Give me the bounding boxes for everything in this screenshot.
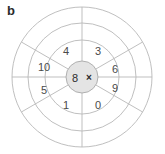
sector-label-middle-1: 10	[38, 61, 50, 73]
sector-label-inner-6: 1	[63, 99, 69, 111]
hub-circle	[66, 61, 98, 93]
sector-label-inner-1: 4	[63, 45, 69, 57]
figure-panel: b 8 × 4 3 6 9 0 1	[0, 0, 165, 154]
hub-group: 8 ×	[66, 61, 98, 93]
middle-ring-labels: 10 5	[38, 61, 50, 96]
sector-label-middle-2: 5	[41, 84, 47, 96]
sector-label-inner-5: 0	[95, 99, 101, 111]
sector-label-inner-3: 6	[112, 63, 118, 75]
multiplication-cross-icon: ×	[86, 72, 92, 83]
sector-label-inner-4: 9	[112, 82, 118, 94]
target-diagram: 8 × 4 3 6 9 0 1 10 5	[0, 0, 165, 154]
hub-value: 8	[72, 72, 78, 84]
sector-label-inner-2: 3	[95, 45, 101, 57]
